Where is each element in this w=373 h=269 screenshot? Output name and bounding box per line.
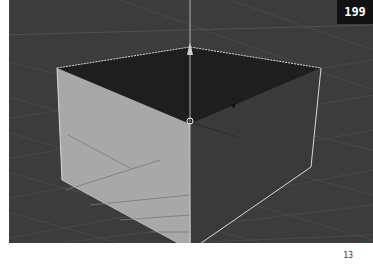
scene: [9, 0, 373, 243]
page-number: 13: [343, 251, 353, 260]
3d-viewport[interactable]: 199: [9, 0, 373, 243]
page-badge: 199: [337, 0, 373, 24]
